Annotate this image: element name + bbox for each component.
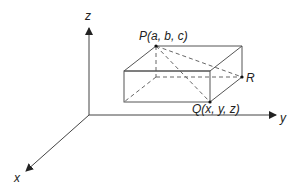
box-front-face: [124, 71, 210, 102]
y-axis-label: y: [279, 111, 287, 125]
diagonal-P-Q: [156, 46, 210, 102]
box-right-bottom-edge: [210, 77, 242, 102]
point-R: [240, 75, 243, 78]
box-diagram: z y x P(a, b, c) Q(x, y, z) R: [0, 0, 295, 190]
box-top-face: [124, 46, 242, 71]
point-Q-label: Q(x, y, z): [192, 102, 240, 116]
x-axis: [26, 115, 89, 171]
point-P-label: P(a, b, c): [139, 29, 188, 43]
z-axis-label: z: [84, 9, 91, 23]
x-axis-label: x: [13, 171, 21, 185]
hidden-edge-left-bottom: [124, 77, 156, 102]
diagonal-P-R: [156, 46, 242, 77]
diagonals: [156, 46, 242, 102]
points: P(a, b, c) Q(x, y, z) R: [139, 29, 255, 116]
point-P: [154, 44, 157, 47]
point-R-label: R: [246, 71, 255, 85]
